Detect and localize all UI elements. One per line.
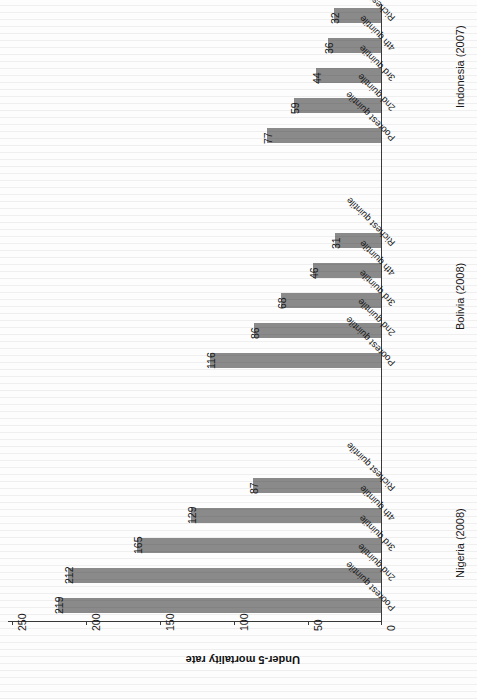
bar-value-label: 86 [250, 327, 261, 339]
group-label: Nigeria (2008) [455, 508, 466, 578]
bar-value-label: 116 [206, 352, 217, 369]
bar-value-label: 68 [277, 297, 288, 309]
group-label: Indonesia (2007) [455, 25, 466, 108]
bar [210, 353, 381, 368]
axis-tick-mark [308, 621, 309, 625]
bar [328, 38, 381, 53]
bar [137, 538, 381, 553]
axis-tick-label: 100 [239, 613, 250, 631]
bar-value-label: 77 [263, 132, 274, 144]
axis-tick-label: 0 [386, 625, 397, 631]
axis-tick-label: 250 [17, 613, 28, 631]
value-scale-rule [8, 621, 382, 622]
bar-value-label: 212 [64, 566, 75, 584]
bar [191, 508, 381, 523]
bar-value-label: 31 [331, 237, 342, 249]
axis-tick-mark [234, 621, 235, 625]
group-label: Bolivia (2008) [455, 263, 466, 330]
axis-tick-mark [86, 621, 87, 625]
bar-value-label: 87 [249, 482, 260, 494]
axis-tick-mark [160, 621, 161, 625]
bar-chart-figure: 250200150100500 775944363211686684631219… [0, 0, 477, 699]
bar-value-label: 44 [312, 72, 323, 84]
axis-tick-label: 50 [313, 619, 324, 631]
bar-value-label: 59 [290, 102, 301, 114]
bar [58, 598, 381, 613]
bar [68, 568, 381, 583]
bar-value-label: 32 [330, 12, 341, 24]
bar-value-label: 36 [324, 42, 335, 54]
axis-title: Under-5 mortality rate [186, 654, 300, 665]
bar-value-label: 165 [133, 536, 144, 554]
axis-tick-mark [381, 621, 382, 625]
bar-value-label: 46 [309, 267, 320, 279]
axis-tick-label: 200 [91, 613, 102, 631]
bar-value-label: 129 [187, 506, 198, 524]
bar [267, 128, 381, 143]
bar-value-label: 219 [54, 596, 65, 614]
axis-tick-label: 150 [165, 613, 176, 631]
axis-tick-mark [12, 621, 13, 625]
